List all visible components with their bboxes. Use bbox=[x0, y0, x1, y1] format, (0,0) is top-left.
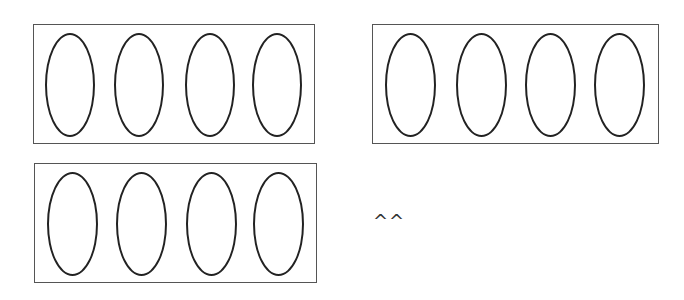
oval-1 bbox=[45, 33, 95, 137]
oval-2 bbox=[114, 33, 164, 137]
oval-1 bbox=[385, 33, 436, 137]
oval-4 bbox=[594, 33, 645, 137]
oval-2 bbox=[116, 172, 167, 276]
oval-4 bbox=[253, 172, 304, 276]
oval-2 bbox=[456, 33, 507, 137]
group-box-2 bbox=[372, 24, 659, 144]
group-box-3 bbox=[34, 163, 317, 283]
oval-4 bbox=[252, 33, 302, 137]
caret-marks: ^^ bbox=[373, 212, 405, 230]
group-box-1 bbox=[33, 24, 315, 144]
oval-3 bbox=[185, 33, 235, 137]
oval-3 bbox=[186, 172, 237, 276]
oval-1 bbox=[47, 172, 98, 276]
oval-3 bbox=[525, 33, 576, 137]
